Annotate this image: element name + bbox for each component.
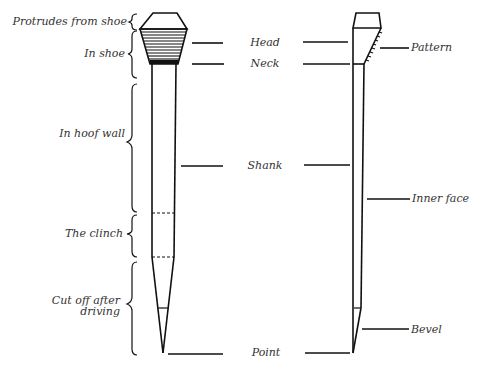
side-bevel-edge — [353, 308, 361, 353]
side-shank-front — [361, 64, 364, 308]
shank-right-edge — [174, 64, 176, 257]
point-right-edge — [163, 257, 174, 353]
label-neck: Neck — [250, 57, 280, 70]
nail-anatomy-diagram: Protrudes from shoe In shoe In hoof wall… — [0, 0, 477, 368]
label-inner-face: Inner face — [411, 192, 470, 205]
label-the-clinch: The clinch — [65, 227, 123, 240]
brace-in-shoe — [128, 31, 137, 78]
label-in-hoof-wall: In hoof wall — [58, 127, 125, 140]
brace-clinch — [127, 215, 137, 257]
brace-cut-off — [127, 262, 137, 355]
label-pattern: Pattern — [410, 41, 452, 54]
label-point: Point — [251, 346, 281, 359]
label-in-shoe: In shoe — [83, 47, 125, 60]
side-view-nail — [353, 13, 382, 353]
side-head-top — [353, 13, 381, 28]
nail-head-top — [140, 13, 187, 29]
point-left-edge — [152, 257, 163, 353]
side-pattern-edge — [364, 28, 381, 64]
label-shank: Shank — [248, 159, 283, 172]
front-view-nail — [140, 13, 187, 353]
label-head: Head — [249, 36, 280, 49]
brace-in-hoof-wall — [127, 84, 137, 212]
right-leaders — [362, 48, 410, 329]
side-pattern-ticks — [366, 32, 382, 61]
left-braces — [127, 14, 137, 355]
label-bevel: Bevel — [410, 323, 442, 336]
label-protrudes-from-shoe: Protrudes from shoe — [12, 15, 128, 28]
label-driving: driving — [80, 305, 120, 318]
center-leaders — [168, 42, 350, 354]
brace-protrudes — [129, 14, 137, 30]
